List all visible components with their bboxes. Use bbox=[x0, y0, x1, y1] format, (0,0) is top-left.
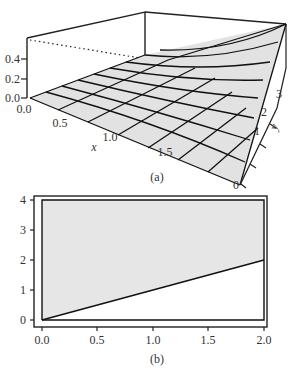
y-tick-label: 0 bbox=[233, 178, 239, 192]
y-axis-label: y bbox=[266, 121, 282, 132]
y-tick-label: 1 bbox=[20, 283, 26, 297]
y-tick-label: 1 bbox=[254, 124, 260, 138]
x-tick-label: 1.0 bbox=[146, 333, 161, 347]
y-tick-label: 3 bbox=[20, 223, 26, 237]
x-tick-label: 0.5 bbox=[90, 333, 105, 347]
panel-a-surface-plot: 0.4 0.2 0.0 0.0 0.5 1.0 1.5 x 0 1 2 3 y … bbox=[5, 12, 286, 192]
panel-a-caption: (a) bbox=[150, 170, 163, 184]
x-axis-label: x bbox=[90, 140, 97, 154]
x-tick-label: 0.0 bbox=[17, 102, 32, 116]
x-tick-label: 0.5 bbox=[53, 116, 68, 130]
panel-b-caption: (b) bbox=[150, 352, 164, 366]
z-tick-label: 0.2 bbox=[5, 72, 20, 86]
y-tick-label: 2 bbox=[261, 105, 267, 119]
x-tick-label: 1.5 bbox=[201, 333, 216, 347]
x-tick-label: 0.0 bbox=[35, 333, 50, 347]
x-tick-label: 1.0 bbox=[103, 130, 118, 144]
y-tick-label: 4 bbox=[20, 193, 26, 207]
figure: 0.4 0.2 0.0 0.0 0.5 1.0 1.5 x 0 1 2 3 y … bbox=[0, 0, 291, 374]
panel-b-region-plot: 4 3 2 1 0 0.0 0.5 1.0 1.5 2.0 (b) bbox=[20, 193, 272, 366]
y-tick-label: 0 bbox=[20, 313, 26, 327]
z-tick-label: 0.4 bbox=[5, 52, 20, 66]
y-tick-label: 2 bbox=[20, 253, 26, 267]
x-tick-label: 1.5 bbox=[158, 145, 173, 159]
x-tick-label: 2.0 bbox=[257, 333, 272, 347]
y-tick-label: 3 bbox=[276, 87, 282, 101]
